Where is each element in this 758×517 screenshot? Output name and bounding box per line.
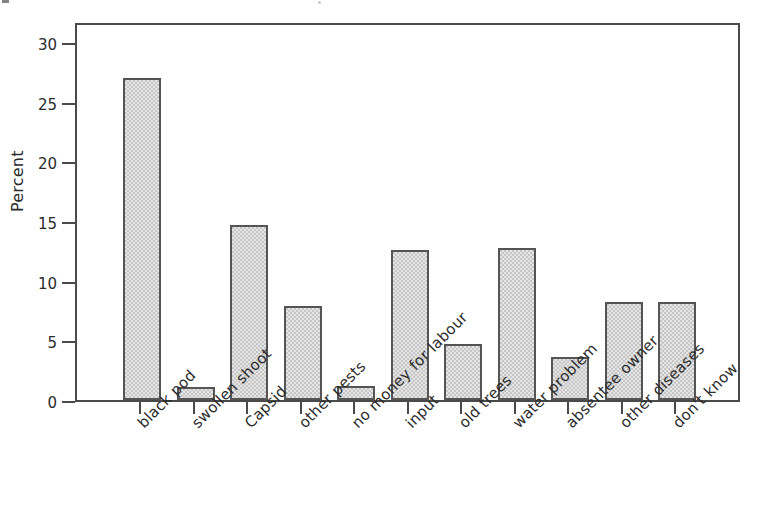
y-axis-title: Percent — [8, 150, 27, 212]
scan-artifact-glyph — [2, 0, 9, 3]
y-axis-tick: 20 — [62, 162, 75, 164]
y-axis-tick-label: 0 — [47, 396, 57, 411]
y-axis-tick: 30 — [62, 43, 75, 45]
bar — [284, 306, 322, 400]
bar — [123, 78, 161, 400]
y-axis-tick: 10 — [62, 282, 75, 284]
y-axis-tick: 15 — [62, 222, 75, 224]
bar-chart-figure: Percent 051015202530black podswollen sho… — [0, 0, 758, 517]
bar — [444, 344, 482, 400]
y-axis-tick-label: 10 — [38, 276, 57, 291]
scan-artifact-speck — [318, 1, 321, 4]
y-axis-tick: 25 — [62, 103, 75, 105]
y-axis-tick-label: 15 — [38, 217, 57, 232]
y-axis-tick-label: 20 — [38, 157, 57, 172]
y-axis-tick-label: 30 — [38, 38, 57, 53]
y-axis-tick-label: 5 — [47, 336, 57, 351]
y-axis-tick-label: 25 — [38, 97, 57, 112]
y-axis-tick: 5 — [62, 341, 75, 343]
y-axis-tick: 0 — [62, 401, 75, 403]
